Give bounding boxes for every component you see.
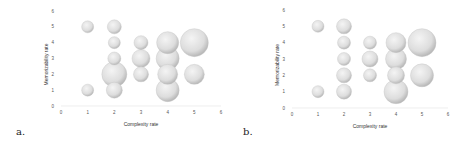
y-tick-label: 5	[282, 24, 285, 29]
panel-label-a: a.	[16, 126, 25, 137]
data-bubble	[386, 33, 406, 53]
y-tick-label: 6	[51, 9, 54, 14]
data-bubble	[338, 36, 351, 49]
data-bubble	[82, 21, 94, 33]
data-bubble	[312, 86, 324, 98]
x-tick-label: 6	[220, 110, 223, 115]
chart-panel-a: 01234560123456Complexity rateMemorizabil…	[0, 0, 235, 148]
y-tick-label: 2	[51, 72, 54, 77]
data-bubble	[312, 20, 324, 32]
y-tick-label: 5	[51, 24, 54, 29]
x-tick-label: 6	[447, 112, 450, 117]
panel-label-b: b.	[243, 126, 253, 137]
data-bubble	[338, 53, 351, 66]
x-axis-title: Complexity rate	[353, 123, 388, 129]
bubble-chart-a: 01234560123456Complexity rateMemorizabil…	[0, 0, 235, 148]
y-tick-label: 4	[282, 40, 285, 45]
data-bubble	[180, 29, 208, 57]
data-bubble	[158, 64, 178, 84]
data-bubble	[132, 50, 150, 68]
data-bubble	[108, 37, 120, 49]
y-tick-label: 2	[282, 73, 285, 78]
data-bubble	[108, 52, 121, 65]
data-bubble	[411, 64, 434, 87]
data-bubble	[362, 51, 378, 67]
x-tick-label: 4	[395, 112, 398, 117]
y-tick-label: 1	[282, 89, 285, 94]
x-axis-title: Complexity rate	[124, 121, 159, 127]
data-bubble	[107, 20, 121, 34]
x-tick-label: 5	[193, 110, 196, 115]
x-tick-label: 3	[369, 112, 372, 117]
data-bubble	[184, 64, 204, 84]
data-bubble	[337, 84, 352, 99]
data-bubble	[408, 29, 436, 57]
data-bubble	[157, 32, 179, 54]
x-tick-label: 1	[86, 110, 89, 115]
y-axis-title: Memorizability rate	[43, 43, 49, 85]
bubble-chart-b: 01234560123456Complexity rateMemorizabil…	[235, 0, 471, 148]
data-bubble	[364, 36, 377, 49]
data-bubble	[82, 84, 94, 96]
data-bubble	[337, 68, 352, 83]
x-tick-label: 5	[421, 112, 424, 117]
x-tick-label: 2	[113, 110, 116, 115]
x-tick-label: 3	[140, 110, 143, 115]
data-bubble	[134, 36, 148, 50]
data-bubble	[388, 67, 405, 84]
y-tick-label: 0	[282, 106, 285, 111]
y-tick-label: 3	[282, 57, 285, 62]
x-tick-label: 0	[60, 110, 63, 115]
y-tick-label: 3	[51, 56, 54, 61]
y-tick-label: 0	[51, 104, 54, 109]
chart-panel-b: 01234560123456Complexity rateMemorizabil…	[235, 0, 471, 148]
y-tick-label: 1	[51, 88, 54, 93]
data-bubble	[337, 19, 352, 34]
y-tick-label: 6	[282, 8, 285, 13]
data-bubble	[364, 69, 377, 82]
x-tick-label: 1	[317, 112, 320, 117]
y-axis-title: Memorizability rate	[274, 44, 280, 86]
data-bubble	[106, 82, 122, 98]
data-bubble	[134, 67, 149, 82]
y-tick-label: 4	[51, 40, 54, 45]
x-tick-label: 0	[291, 112, 294, 117]
x-tick-label: 4	[166, 110, 169, 115]
x-tick-label: 2	[343, 112, 346, 117]
